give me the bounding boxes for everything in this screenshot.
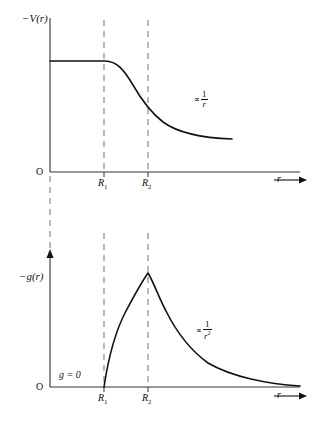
potential-panel: [50, 18, 307, 184]
field-panel: [47, 233, 308, 400]
physics-figure: [0, 0, 315, 426]
field-origin-label: O: [36, 381, 43, 392]
field-r2-label: R2: [142, 392, 152, 405]
potential-r1-label: R1: [98, 177, 108, 190]
potential-x-axis-label: r: [277, 173, 281, 184]
field-y-axis-label: −g(r): [19, 270, 44, 282]
potential-y-axis-label: −V(r): [22, 12, 48, 24]
potential-r2-label: R2: [142, 177, 152, 190]
field-zero-label: g = 0: [59, 369, 81, 380]
field-r1-label: R1: [98, 392, 108, 405]
field-proportionality-annotation: ∝1r2: [196, 320, 212, 341]
potential-origin-label: O: [36, 166, 43, 177]
field-y-axis-arrow-icon: [47, 249, 54, 258]
potential-proportionality-annotation: ∝1r: [194, 90, 208, 109]
field-x-axis-label: r: [277, 389, 281, 400]
